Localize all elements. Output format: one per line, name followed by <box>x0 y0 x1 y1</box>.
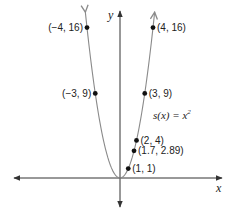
data-point-marker <box>126 166 131 171</box>
function-label-main: s(x) = x <box>153 109 187 122</box>
data-point-label: (3, 9) <box>149 88 172 99</box>
data-point-label: (−4, 16) <box>48 22 83 33</box>
data-point-label: (−3, 9) <box>62 88 91 99</box>
data-point-label: (1.7, 2.89) <box>138 145 184 156</box>
parabola-graph: y x s(x) = x2 (−4, 16)(−3, 9)(4, 16)(3, … <box>0 0 239 211</box>
x-axis-label: x <box>215 181 222 195</box>
data-point-label: (2, 4) <box>141 135 164 146</box>
function-label: s(x) = x2 <box>153 108 191 122</box>
data-point-marker <box>85 25 90 30</box>
data-point-marker <box>151 25 156 30</box>
data-point-label: (4, 16) <box>157 22 186 33</box>
function-label-exponent: 2 <box>187 108 191 116</box>
y-axis-label: y <box>107 8 114 22</box>
data-point-marker <box>93 91 98 96</box>
data-point-label: (1, 1) <box>132 163 155 174</box>
data-points: (−4, 16)(−3, 9)(4, 16)(3, 9)(2, 4)(1.7, … <box>48 22 186 174</box>
data-point-marker <box>142 91 147 96</box>
data-point-marker <box>132 148 137 153</box>
data-point-marker <box>134 138 139 143</box>
